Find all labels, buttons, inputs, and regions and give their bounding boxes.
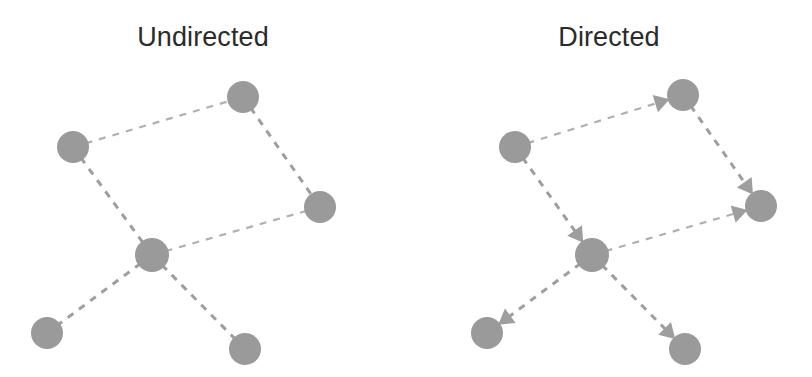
panel-undirected: Undirected [0, 0, 406, 377]
edge-left-to-top [527, 103, 657, 143]
edge-center-to-bottom-right-arrowhead-icon [658, 322, 675, 339]
node-left[interactable] [499, 131, 531, 163]
edge-top-to-right [690, 106, 745, 184]
edge-center-bottom-right [162, 265, 236, 340]
edge-left-top [85, 101, 230, 144]
edge-center-to-bottom-left [509, 263, 581, 317]
edge-center-to-bottom-left-arrowhead-icon [498, 308, 515, 324]
edge-layer [57, 101, 312, 340]
edge-center-to-right-arrowhead-icon [731, 205, 748, 222]
node-left[interactable] [57, 131, 89, 163]
node-center[interactable] [135, 238, 169, 272]
edge-left-to-center-arrowhead-icon [567, 225, 583, 242]
node-right[interactable] [304, 191, 336, 223]
node-bottom-right[interactable] [229, 333, 261, 365]
panel-directed: Directed [406, 0, 812, 377]
node-bottom-right[interactable] [669, 333, 701, 365]
node-bottom-left[interactable] [471, 317, 503, 349]
edge-layer [509, 103, 746, 330]
directed-graph-canvas [406, 0, 812, 377]
edge-left-to-top-arrowhead-icon [653, 95, 670, 112]
node-top[interactable] [667, 79, 699, 111]
node-center[interactable] [575, 238, 609, 272]
node-top[interactable] [227, 81, 259, 113]
graph-comparison-figure: Undirected Directed [0, 0, 812, 377]
edge-center-right [165, 211, 307, 252]
edge-center-to-bottom-right [602, 265, 666, 330]
edge-center-bottom-left [57, 263, 140, 325]
node-right[interactable] [745, 190, 777, 222]
edge-top-to-right-arrowhead-icon [737, 177, 753, 194]
edge-center-to-right [605, 214, 735, 252]
edge-left-center [81, 157, 144, 243]
undirected-graph-canvas [0, 0, 406, 377]
edge-top-right [250, 108, 312, 197]
node-bottom-left[interactable] [31, 317, 63, 349]
edge-left-to-center [523, 158, 576, 233]
arrow-layer [498, 95, 753, 339]
node-layer [31, 81, 336, 365]
node-layer [471, 79, 777, 365]
